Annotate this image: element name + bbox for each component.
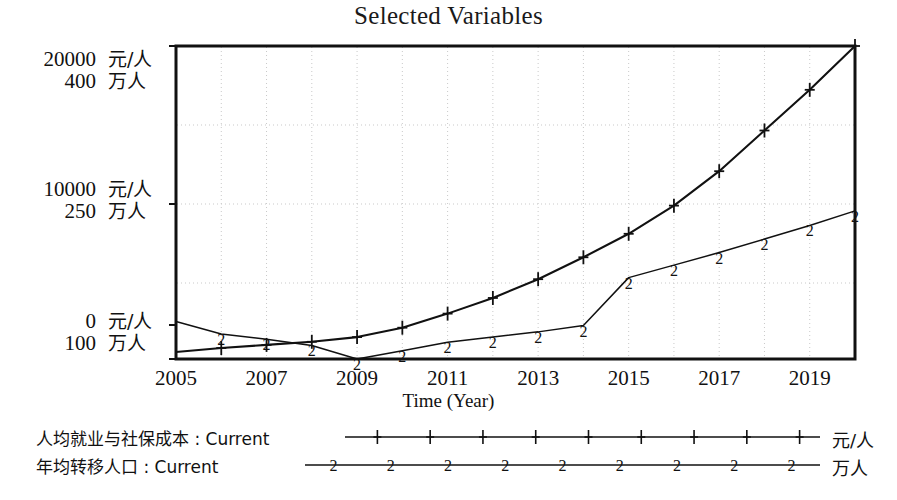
data-marker: 2 bbox=[715, 250, 723, 267]
svg-text:2: 2 bbox=[559, 457, 567, 474]
data-marker bbox=[533, 272, 543, 286]
legend-series-unit: 元/人 bbox=[832, 426, 874, 452]
x-axis-tick-2011: 2011 bbox=[427, 366, 468, 391]
x-axis-tick-2017: 2017 bbox=[698, 366, 740, 391]
data-marker: 2 bbox=[489, 334, 497, 351]
legend-row-2[interactable]: 年均转移人口 : Current222222222万人 bbox=[0, 451, 897, 479]
data-marker: 2 bbox=[444, 339, 452, 356]
data-marker bbox=[669, 199, 679, 213]
svg-text:2: 2 bbox=[387, 457, 395, 474]
legend-series-name: 人均就业与社保成本 : Current bbox=[36, 425, 336, 450]
data-marker: 2 bbox=[579, 323, 587, 340]
svg-text:2: 2 bbox=[616, 457, 624, 474]
x-axis-tick-2005: 2005 bbox=[155, 366, 197, 391]
x-axis-tick-2015: 2015 bbox=[608, 366, 650, 391]
data-marker: 2 bbox=[398, 348, 406, 365]
data-marker bbox=[624, 227, 634, 241]
data-marker: 2 bbox=[670, 262, 678, 279]
legend-series-name: 年均转移人口 : Current bbox=[36, 453, 336, 478]
svg-text:2: 2 bbox=[444, 457, 452, 474]
data-marker: 2 bbox=[851, 208, 859, 225]
data-marker bbox=[850, 39, 860, 53]
legend-series-unit: 万人 bbox=[832, 454, 868, 480]
series-2: 222222222222222 bbox=[176, 208, 859, 373]
data-marker: 2 bbox=[217, 331, 225, 348]
gridlines bbox=[177, 47, 854, 358]
data-marker bbox=[714, 164, 724, 178]
data-marker bbox=[488, 291, 498, 305]
data-marker: 2 bbox=[625, 275, 633, 292]
svg-text:2: 2 bbox=[330, 457, 338, 474]
legend-row-1[interactable]: 人均就业与社保成本 : Current元/人 bbox=[0, 423, 897, 451]
plot-frame bbox=[176, 46, 855, 359]
data-marker bbox=[397, 321, 407, 335]
data-marker bbox=[578, 250, 588, 264]
data-marker bbox=[805, 83, 815, 97]
data-marker: 2 bbox=[534, 329, 542, 346]
data-marker: 2 bbox=[263, 336, 271, 353]
data-marker bbox=[443, 307, 453, 321]
x-axis-tick-2009: 2009 bbox=[336, 366, 378, 391]
svg-text:2: 2 bbox=[673, 457, 681, 474]
x-axis-tick-2013: 2013 bbox=[517, 366, 559, 391]
legend-line-sample bbox=[345, 425, 820, 449]
chart-canvas: Selected Variables 20000元/人400万人10000元/人… bbox=[0, 0, 897, 500]
data-marker bbox=[352, 330, 362, 344]
svg-text:2: 2 bbox=[501, 457, 509, 474]
series-1 bbox=[176, 39, 860, 355]
data-marker: 2 bbox=[760, 236, 768, 253]
x-axis-tick-2007: 2007 bbox=[246, 366, 288, 391]
svg-text:2: 2 bbox=[730, 457, 738, 474]
x-axis-tick-2019: 2019 bbox=[789, 366, 831, 391]
x-axis-title: Time (Year) bbox=[0, 390, 897, 412]
data-marker: 2 bbox=[308, 342, 316, 359]
chart-legend: 人均就业与社保成本 : Current元/人年均转移人口 : Current22… bbox=[0, 423, 897, 485]
legend-line-sample: 222222222 bbox=[305, 453, 820, 477]
data-marker bbox=[759, 124, 769, 138]
svg-text:2: 2 bbox=[787, 457, 795, 474]
data-marker: 2 bbox=[806, 222, 814, 239]
